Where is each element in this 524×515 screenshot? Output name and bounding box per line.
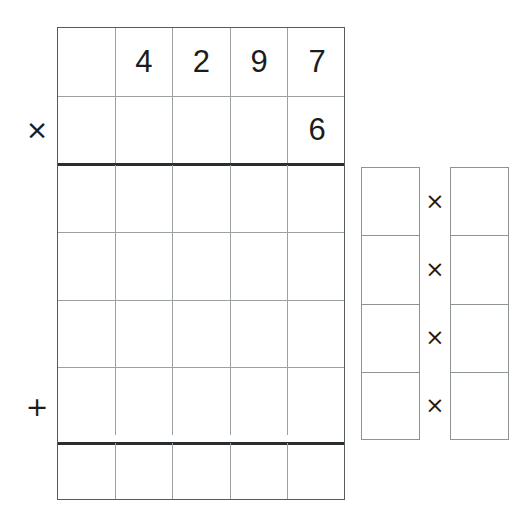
cell-r2c3[interactable] [173, 96, 231, 164]
cell-r5c5[interactable] [288, 300, 346, 368]
helper-right-cell-4[interactable] [451, 373, 508, 441]
cell-r3c2[interactable] [116, 165, 174, 233]
cell-r2c1[interactable] [58, 96, 116, 164]
operator-add: + [20, 393, 54, 420]
cell-r1c2[interactable]: 4 [116, 28, 174, 96]
cell-r6c2[interactable] [116, 367, 174, 435]
helper-left-cell-2[interactable] [362, 236, 419, 304]
cell-r7c2[interactable] [116, 443, 174, 499]
cell-r3c5[interactable] [288, 165, 346, 233]
helper-left-cell-4[interactable] [362, 373, 419, 441]
table-row [58, 300, 344, 368]
helper-multiply-icon-1: × [420, 167, 450, 235]
cell-r7c4[interactable] [231, 443, 289, 499]
helper-left-cell-1[interactable] [362, 168, 419, 236]
cell-r2c5[interactable]: 6 [288, 96, 346, 164]
cell-r7c3[interactable] [173, 443, 231, 499]
cell-r6c3[interactable] [173, 367, 231, 435]
helper-right-cell-3[interactable] [451, 305, 508, 373]
helper-right-cell-1[interactable] [451, 168, 508, 236]
cell-r6c5[interactable] [288, 367, 346, 435]
cell-r6c1[interactable] [58, 367, 116, 435]
helper-multiply-icon-2: × [420, 235, 450, 303]
cell-r1c1[interactable] [58, 28, 116, 96]
helper-multiply-icon-3: × [420, 304, 450, 372]
cell-r1c5[interactable]: 7 [288, 28, 346, 96]
cell-r3c1[interactable] [58, 165, 116, 233]
table-row [58, 232, 344, 300]
helper-operator-column: × × × × [420, 167, 450, 440]
cell-r1c4[interactable]: 9 [231, 28, 289, 96]
cell-r6c4[interactable] [231, 367, 289, 435]
cell-r3c4[interactable] [231, 165, 289, 233]
cell-r2c4[interactable] [231, 96, 289, 164]
cell-r4c4[interactable] [231, 232, 289, 300]
cell-r7c1[interactable] [58, 443, 116, 499]
helper-right-cell-2[interactable] [451, 236, 508, 304]
main-multiplication-grid: 4 2 9 7 6 [57, 27, 345, 500]
cell-r4c2[interactable] [116, 232, 174, 300]
table-row [58, 165, 344, 233]
table-row: 6 [58, 96, 344, 164]
operator-multiply: × [20, 116, 54, 143]
cell-r4c3[interactable] [173, 232, 231, 300]
table-row: 4 2 9 7 [58, 28, 344, 96]
table-row [58, 367, 344, 435]
cell-r4c5[interactable] [288, 232, 346, 300]
helper-left-cell-3[interactable] [362, 305, 419, 373]
cell-r3c3[interactable] [173, 165, 231, 233]
helper-product-column [450, 167, 509, 440]
cell-r5c2[interactable] [116, 300, 174, 368]
cell-r7c5[interactable] [288, 443, 346, 499]
helper-workspace: × × × × [361, 167, 509, 440]
helper-multiply-icon-4: × [420, 372, 450, 440]
helper-digit-column [361, 167, 420, 440]
cell-r1c3[interactable]: 2 [173, 28, 231, 96]
table-row [58, 443, 344, 499]
cell-r4c1[interactable] [58, 232, 116, 300]
multiplication-worksheet: × + 4 2 9 7 6 [0, 0, 524, 515]
cell-r5c1[interactable] [58, 300, 116, 368]
cell-r5c3[interactable] [173, 300, 231, 368]
cell-r2c2[interactable] [116, 96, 174, 164]
cell-r5c4[interactable] [231, 300, 289, 368]
